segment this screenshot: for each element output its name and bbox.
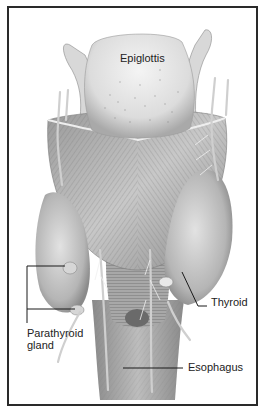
parathyroid-upper — [63, 262, 77, 274]
label-thyroid: Thyroid — [211, 296, 248, 308]
label-esophagus: Esophagus — [188, 361, 243, 373]
parathyroid-lower — [70, 305, 84, 315]
label-parathyroid-line2: gland — [27, 339, 83, 351]
label-parathyroid-line1: Parathyroid — [27, 327, 83, 339]
epiglottis-shape — [85, 34, 195, 138]
label-epiglottis: Epiglottis — [120, 52, 165, 64]
label-parathyroid-gland: Parathyroid gland — [27, 327, 83, 351]
